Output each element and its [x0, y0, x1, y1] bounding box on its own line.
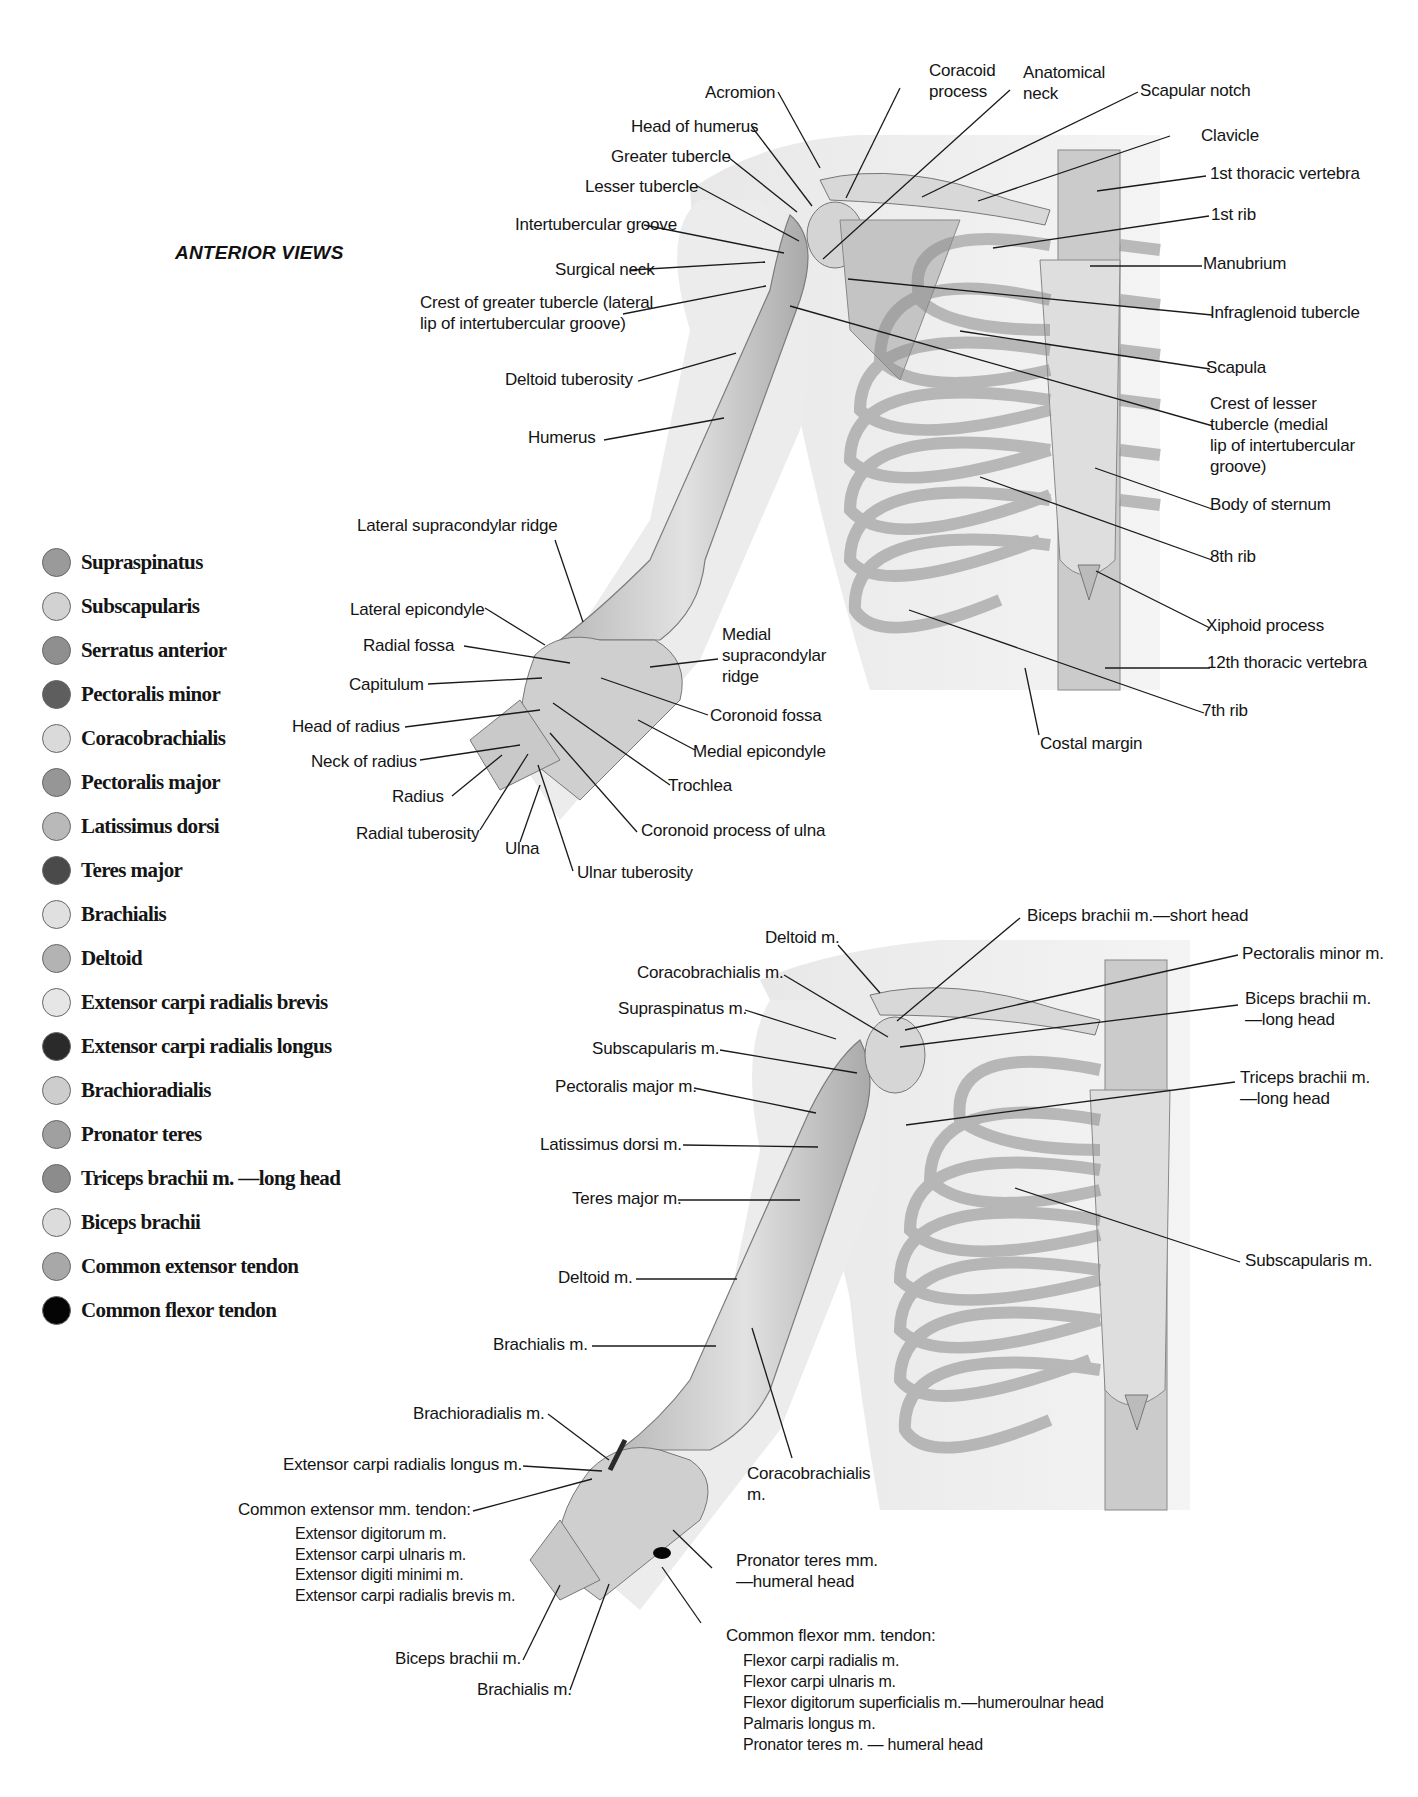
label-8th-rib: 8th rib	[1210, 546, 1256, 567]
label-ulnar-tuberosity: Ulnar tuberosity	[577, 862, 693, 883]
label-biceps-short-head: Biceps brachii m.—short head	[1027, 905, 1248, 926]
label-acromion: Acromion	[705, 82, 775, 103]
label-pectoralis-major-m: Pectoralis major m.	[555, 1076, 697, 1097]
label-trochlea: Trochlea	[668, 775, 732, 796]
figure-title: ANTERIOR VIEWS	[175, 242, 344, 264]
legend-item-deltoid: Deltoid	[42, 936, 402, 980]
color-swatch-icon	[42, 1164, 71, 1193]
label-deltoid-m-top: Deltoid m.	[765, 927, 840, 948]
label-intertubercular-groove: Intertubercular groove	[515, 214, 677, 235]
legend-item-ecrb: Extensor carpi radialis brevis	[42, 980, 402, 1024]
label-lesser-tubercle: Lesser tubercle	[585, 176, 698, 197]
legend-item-latissimus-dorsi: Latissimus dorsi	[42, 804, 402, 848]
label-subscapularis-m-left: Subscapularis m.	[592, 1038, 719, 1059]
label-head-of-humerus: Head of humerus	[631, 116, 758, 137]
label-radial-tuberosity: Radial tuberosity	[356, 823, 479, 844]
legend-item-pronator-teres: Pronator teres	[42, 1112, 402, 1156]
anatomy-figure: ANTERIOR VIEWS Supraspinatus Subscapular…	[0, 0, 1418, 1797]
label-1st-rib: 1st rib	[1211, 204, 1256, 225]
legend-item-brachioradialis: Brachioradialis	[42, 1068, 402, 1112]
label-brachialis-m-arm: Brachialis m.	[493, 1334, 588, 1355]
label-anatomical-neck: Anatomical neck	[1023, 62, 1105, 104]
label-12th-thoracic-vertebra: 12th thoracic vertebra	[1207, 652, 1367, 673]
label-coronoid-fossa: Coronoid fossa	[710, 705, 822, 726]
label-infraglenoid-tubercle: Infraglenoid tubercle	[1210, 302, 1360, 323]
label-ecrl-m: Extensor carpi radialis longus m.	[283, 1454, 522, 1475]
legend-item-supraspinatus: Supraspinatus	[42, 540, 402, 584]
label-capitulum: Capitulum	[349, 674, 424, 695]
color-swatch-icon	[42, 636, 71, 665]
label-common-extensor-list: Extensor digitorum m. Extensor carpi uln…	[279, 1524, 515, 1606]
label-coronoid-process-ulna: Coronoid process of ulna	[641, 820, 825, 841]
label-surgical-neck: Surgical neck	[555, 259, 654, 280]
color-swatch-icon	[42, 812, 71, 841]
label-radius: Radius	[392, 786, 444, 807]
color-swatch-icon	[42, 724, 71, 753]
label-coracobrachialis-m-top: Coracobrachialis m.	[637, 962, 783, 983]
label-greater-tubercle: Greater tubercle	[611, 146, 731, 167]
legend-item-common-extensor-tendon: Common extensor tendon	[42, 1244, 402, 1288]
label-common-flexor-list: Flexor carpi radialis m. Flexor carpi ul…	[727, 1650, 1104, 1755]
label-supraspinatus-m: Supraspinatus m.	[618, 998, 747, 1019]
color-swatch-icon	[42, 768, 71, 797]
label-clavicle: Clavicle	[1201, 125, 1259, 146]
legend-item-triceps-long-head: Triceps brachii m. —long head	[42, 1156, 402, 1200]
label-head-of-radius: Head of radius	[292, 716, 400, 737]
legend-item-common-flexor-tendon: Common flexor tendon	[42, 1288, 402, 1332]
color-swatch-icon	[42, 900, 71, 929]
label-1st-thoracic-vertebra: 1st thoracic vertebra	[1210, 163, 1360, 184]
label-pectoralis-minor-m: Pectoralis minor m.	[1242, 943, 1384, 964]
label-medial-epicondyle: Medial epicondyle	[693, 741, 826, 762]
color-swatch-icon	[42, 592, 71, 621]
label-ulna: Ulna	[505, 838, 539, 859]
color-swatch-icon	[42, 856, 71, 885]
label-crest-lesser-tubercle: Crest of lesser tubercle (medial lip of …	[1210, 393, 1355, 477]
label-lateral-epicondyle: Lateral epicondyle	[350, 599, 484, 620]
label-scapular-notch: Scapular notch	[1140, 80, 1251, 101]
color-swatch-icon	[42, 1252, 71, 1281]
label-latissimus-dorsi-m: Latissimus dorsi m.	[540, 1134, 682, 1155]
label-pronator-teres-humeral-head: Pronator teres mm. —humeral head	[736, 1550, 878, 1592]
label-triceps-long-head: Triceps brachii m. —long head	[1240, 1067, 1370, 1109]
color-swatch-icon	[42, 1120, 71, 1149]
color-swatch-icon	[42, 1296, 71, 1325]
label-scapula: Scapula	[1206, 357, 1266, 378]
legend-item-subscapularis: Subscapularis	[42, 584, 402, 628]
label-biceps-brachii-m: Biceps brachii m.	[395, 1648, 521, 1669]
label-medial-supracondylar-ridge: Medial supracondylar ridge	[722, 624, 826, 687]
color-swatch-icon	[42, 988, 71, 1017]
label-radial-fossa: Radial fossa	[363, 635, 454, 656]
label-humerus: Humerus	[528, 427, 596, 448]
legend-item-biceps-brachii: Biceps brachii	[42, 1200, 402, 1244]
label-costal-margin: Costal margin	[1040, 733, 1142, 754]
label-deltoid-tuberosity: Deltoid tuberosity	[505, 369, 633, 390]
legend-item-serratus-anterior: Serratus anterior	[42, 628, 402, 672]
label-common-flexor-tendon: Common flexor mm. tendon:	[726, 1625, 935, 1646]
label-coracobrachialis-m-arm: Coracobrachialis m.	[747, 1463, 870, 1505]
color-swatch-icon	[42, 548, 71, 577]
label-common-extensor-tendon: Common extensor mm. tendon:	[238, 1499, 471, 1520]
label-brachioradialis-m: Brachioradialis m.	[413, 1403, 545, 1424]
color-swatch-icon	[42, 680, 71, 709]
label-7th-rib: 7th rib	[1202, 700, 1248, 721]
legend-item-pectoralis-minor: Pectoralis minor	[42, 672, 402, 716]
legend-item-brachialis: Brachialis	[42, 892, 402, 936]
legend-item-teres-major: Teres major	[42, 848, 402, 892]
color-swatch-icon	[42, 1076, 71, 1105]
legend-item-ecrl: Extensor carpi radialis longus	[42, 1024, 402, 1068]
label-deltoid-m-arm: Deltoid m.	[558, 1267, 633, 1288]
label-manubrium: Manubrium	[1203, 253, 1286, 274]
label-coracoid-process: Coracoid process	[929, 60, 995, 102]
color-swatch-icon	[42, 944, 71, 973]
label-brachialis-m-forearm: Brachialis m.	[477, 1679, 572, 1700]
label-teres-major-m: Teres major m.	[572, 1188, 682, 1209]
muscle-color-legend: Supraspinatus Subscapularis Serratus ant…	[42, 540, 402, 1332]
label-lateral-supracondylar-ridge: Lateral supracondylar ridge	[357, 515, 558, 536]
label-subscapularis-m-right: Subscapularis m.	[1245, 1250, 1372, 1271]
color-swatch-icon	[42, 1032, 71, 1061]
label-crest-greater-tubercle: Crest of greater tubercle (lateral lip o…	[420, 292, 653, 334]
label-xiphoid-process: Xiphoid process	[1206, 615, 1324, 636]
label-neck-of-radius: Neck of radius	[311, 751, 417, 772]
color-swatch-icon	[42, 1208, 71, 1237]
label-biceps-long-head: Biceps brachii m. —long head	[1245, 988, 1371, 1030]
